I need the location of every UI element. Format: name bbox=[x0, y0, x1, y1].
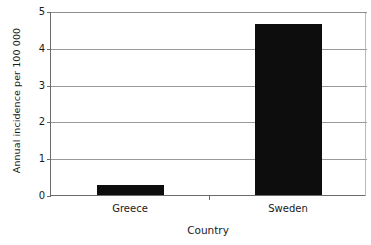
y-axis-title: Annual incidence per 100 000 bbox=[11, 6, 22, 196]
y-tick-label-2: 2 bbox=[39, 117, 45, 127]
y-tick-mark-3 bbox=[47, 86, 51, 87]
y-tick-label-3: 3 bbox=[39, 81, 45, 91]
x-tick-mark-1 bbox=[209, 195, 210, 200]
y-tick-mark-2 bbox=[47, 122, 51, 123]
gridline-5 bbox=[51, 12, 367, 13]
y-tick-label-5: 5 bbox=[39, 7, 45, 17]
bar-sweden bbox=[255, 24, 322, 195]
x-tick-label-greece: Greece bbox=[112, 203, 148, 214]
y-tick-mark-1 bbox=[47, 159, 51, 160]
bar-chart: Annual incidence per 100 000 012345 Gree… bbox=[0, 0, 371, 245]
bar-greece bbox=[97, 185, 164, 195]
y-tick-mark-5 bbox=[47, 12, 51, 13]
plot-frame-right-edge bbox=[365, 12, 366, 196]
y-tick-label-1: 1 bbox=[39, 154, 45, 164]
y-tick-label-4: 4 bbox=[39, 44, 45, 54]
y-tick-mark-4 bbox=[47, 49, 51, 50]
y-tick-mark-0 bbox=[47, 196, 51, 197]
x-axis-title: Country bbox=[50, 224, 366, 236]
plot-area: 012345 GreeceSweden bbox=[50, 12, 366, 196]
x-tick-label-sweden: Sweden bbox=[268, 203, 308, 214]
y-tick-label-0: 0 bbox=[39, 191, 45, 201]
